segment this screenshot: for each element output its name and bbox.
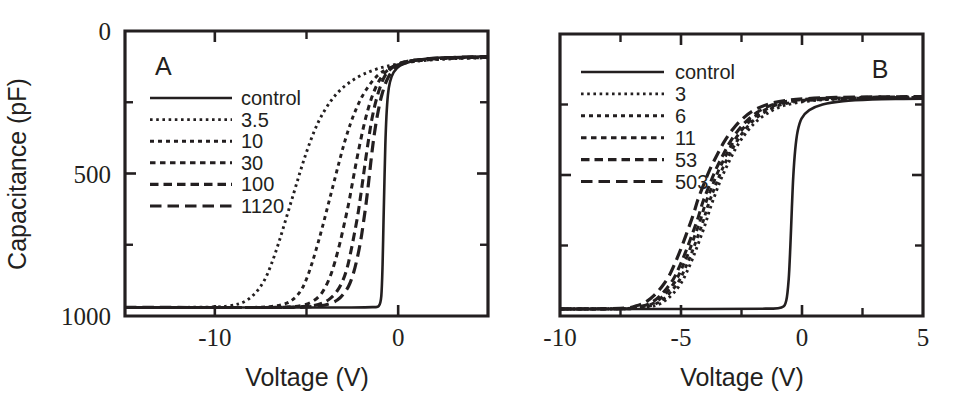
xtick-label: -10 — [543, 324, 576, 351]
panel-a-legend: control3.510301001120 — [150, 87, 301, 217]
legend-label-a-control: control — [241, 87, 301, 109]
axis-frame-b — [560, 34, 923, 316]
panel-a: -10005001000 A Voltage (V) Capacitance (… — [3, 18, 488, 391]
legend-label-b-6: 6 — [675, 105, 686, 127]
panel-a-letter: A — [155, 52, 172, 80]
ytick-label: 1000 — [61, 303, 111, 330]
xtick-label: 0 — [392, 324, 405, 351]
panel-a-curves — [125, 56, 488, 307]
panel-b-curves — [560, 97, 923, 309]
curve-a-100 — [125, 57, 488, 308]
panel-a-yaxis-label: Capacitance (pF) — [3, 78, 31, 270]
legend-label-b-3: 3 — [675, 83, 686, 105]
legend-label-b-control: control — [675, 61, 735, 83]
xtick-label: -5 — [671, 324, 692, 351]
axis-frame-a — [125, 31, 488, 316]
curve-b-11 — [560, 97, 923, 309]
curve-a-10 — [125, 58, 488, 308]
panel-a-xaxis-label: Voltage (V) — [245, 363, 369, 391]
panel-b-axes — [560, 34, 923, 316]
panel-b-tick-labels: -10-505 — [543, 324, 929, 351]
xtick-label: -10 — [198, 324, 231, 351]
figure-canvas: -10005001000 A Voltage (V) Capacitance (… — [0, 0, 954, 416]
curve-a-control — [125, 56, 488, 307]
legend-label-b-53: 53 — [675, 149, 697, 171]
legend-label-a-3_5: 3.5 — [241, 109, 269, 131]
curve-a-3_5 — [125, 58, 488, 308]
xtick-label: 5 — [917, 324, 930, 351]
legend-label-a-30: 30 — [241, 152, 263, 174]
legend-label-a-1120: 1120 — [241, 195, 284, 217]
panel-a-axes — [125, 31, 488, 316]
legend-label-b-11: 11 — [675, 127, 696, 149]
legend-label-a-100: 100 — [241, 173, 274, 195]
curve-a-30 — [125, 57, 488, 307]
panel-b-letter: B — [872, 55, 889, 83]
figure-capacitance-voltage: -10005001000 A Voltage (V) Capacitance (… — [0, 0, 954, 416]
curve-a-1120 — [125, 57, 488, 308]
xtick-label: 0 — [796, 324, 809, 351]
curve-b-53 — [560, 97, 923, 309]
panel-b-legend: control361153503 — [581, 61, 735, 193]
panel-b-xaxis-label: Voltage (V) — [680, 363, 804, 391]
legend-label-b-503: 503 — [675, 171, 708, 193]
ytick-label: 500 — [74, 161, 112, 188]
legend-label-a-10: 10 — [241, 130, 263, 152]
panel-b: -10-505 B Voltage (V) control361153503 — [543, 34, 929, 391]
ytick-label: 0 — [99, 18, 112, 45]
